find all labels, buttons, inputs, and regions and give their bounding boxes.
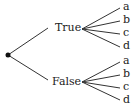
leaf-true-b: b	[123, 14, 130, 26]
leaf-true-c: c	[123, 27, 129, 39]
tree-diagram: True False a b c d a b c d	[0, 0, 137, 107]
leaf-false-c: c	[123, 81, 129, 93]
branch-label-true: True	[55, 22, 81, 34]
leaf-true-a: a	[123, 1, 130, 13]
leaf-false-b: b	[123, 68, 130, 80]
leaf-false-d: d	[123, 94, 130, 106]
leaf-true-d: d	[123, 40, 130, 52]
tree-edges	[0, 0, 137, 107]
branch-label-false: False	[52, 76, 81, 88]
root-node-dot	[6, 53, 11, 58]
leaf-false-a: a	[123, 55, 130, 67]
